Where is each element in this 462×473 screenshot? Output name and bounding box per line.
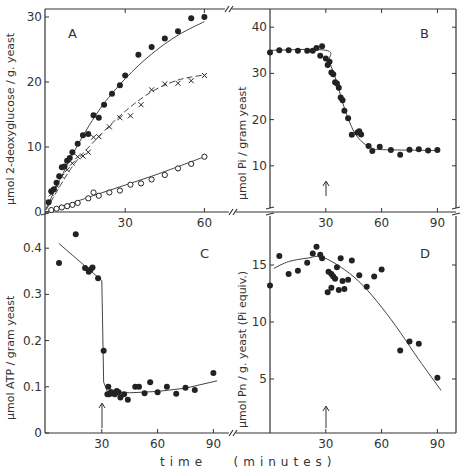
data-point (176, 81, 181, 86)
data-point (117, 82, 123, 88)
y-tick-label: 10 (27, 140, 42, 154)
data-point (341, 286, 347, 292)
data-point (434, 147, 440, 153)
data-point (202, 154, 207, 159)
data-point (101, 102, 107, 108)
data-point (162, 172, 167, 177)
data-point (149, 177, 154, 182)
data-point (201, 14, 207, 20)
data-point (90, 265, 96, 271)
data-point (56, 260, 62, 266)
data-point (397, 348, 403, 354)
data-point (210, 370, 216, 376)
data-point (356, 272, 362, 278)
data-point (379, 267, 385, 273)
data-point (317, 53, 323, 59)
data-point (304, 48, 310, 54)
y-tick-label: 0 (34, 205, 42, 219)
data-point (319, 255, 325, 261)
panel-label-a: A (68, 26, 77, 41)
data-point (128, 113, 133, 118)
data-point (136, 384, 142, 390)
data-point (286, 271, 292, 277)
data-point (183, 385, 189, 391)
data-point (65, 167, 70, 172)
data-point (304, 260, 310, 266)
y-label-a: µmol 2-deoxyglucose / g. yeast (4, 32, 17, 205)
data-point (369, 148, 375, 154)
data-point (75, 141, 81, 147)
data-point (85, 131, 91, 137)
data-point (96, 134, 101, 139)
x-tick-label: 60 (374, 437, 389, 451)
panel-label-b: B (420, 26, 429, 41)
x-tick-label: 60 (150, 437, 165, 451)
y-tick-label: 0.1 (23, 380, 42, 394)
y-tick-label: 10 (252, 159, 267, 173)
data-point (109, 91, 115, 97)
data-point (434, 375, 440, 381)
data-point (69, 149, 75, 155)
data-point (341, 108, 347, 114)
data-point (416, 146, 422, 152)
y-tick-label: 0.2 (23, 334, 42, 348)
data-point (319, 43, 325, 49)
data-point (328, 285, 334, 291)
data-point (46, 199, 52, 205)
data-point (175, 28, 181, 34)
data-point (70, 161, 75, 166)
data-point (96, 193, 101, 198)
x-tick-label: 30 (94, 437, 109, 451)
data-point (188, 15, 194, 21)
data-point (128, 182, 133, 187)
y-label-c: µmol ATP / gram yeast (4, 295, 17, 420)
data-point (73, 231, 79, 237)
data-point (189, 161, 194, 166)
data-point (65, 204, 70, 209)
data-point (416, 341, 422, 347)
x-tick-label: 30 (318, 216, 333, 230)
data-point (147, 379, 153, 385)
data-point (377, 144, 383, 150)
data-point (202, 73, 207, 78)
data-point (142, 390, 148, 396)
data-point (371, 273, 377, 279)
data-point (149, 44, 155, 50)
data-point (345, 277, 351, 283)
data-point (340, 278, 346, 284)
data-point (139, 102, 144, 107)
data-point (276, 253, 282, 259)
y-label-b: µmol Pi / gram yeast (236, 86, 249, 200)
data-point (86, 150, 91, 155)
data-point (80, 132, 86, 138)
data-point (135, 52, 141, 58)
data-point (107, 124, 112, 129)
data-point (164, 384, 170, 390)
data-point (138, 181, 143, 186)
y-tick-label: 30 (252, 66, 267, 80)
data-point (162, 35, 168, 41)
y-tick-label: 10 (252, 315, 267, 329)
data-point (295, 48, 301, 54)
data-point (54, 206, 59, 211)
data-point (327, 59, 333, 65)
data-point (314, 244, 320, 250)
y-tick-label: 0.3 (23, 287, 42, 301)
data-point (70, 202, 75, 207)
data-point (407, 338, 413, 344)
data-point (332, 276, 338, 282)
data-point (95, 275, 101, 281)
fit-curve (46, 22, 204, 209)
data-point (192, 387, 198, 393)
y-tick-label: 20 (27, 75, 42, 89)
y-tick-label: 30 (27, 10, 42, 24)
data-point (107, 190, 112, 195)
data-point (105, 384, 111, 390)
data-point (338, 255, 344, 261)
y-tick-label: 40 (252, 20, 267, 34)
y-tick-label: 0 (34, 426, 42, 440)
data-point (162, 81, 167, 86)
data-point (155, 389, 161, 395)
data-point (67, 155, 73, 161)
y-tick-label: 20 (252, 113, 267, 127)
